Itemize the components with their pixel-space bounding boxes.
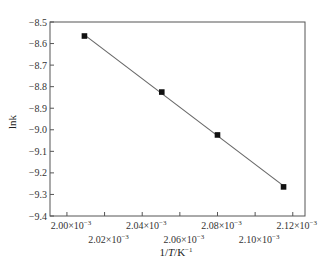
data-point — [215, 132, 221, 138]
x-tick-label: 2.00×10−3 — [51, 219, 92, 231]
x-tick-label: 2.04×10−3 — [126, 219, 167, 231]
y-tick-label: −9.3 — [29, 189, 47, 200]
data-series — [82, 33, 287, 189]
y-tick-label: −8.8 — [29, 81, 47, 92]
y-tick-label: −9.1 — [29, 146, 47, 157]
x-axis-ticks: 2.00×10−32.02×10−32.04×10−32.06×10−32.08… — [51, 212, 318, 245]
data-point — [82, 33, 88, 39]
x-tick-label: 2.02×10−3 — [88, 233, 129, 245]
data-point — [159, 89, 165, 95]
y-tick-label: −8.6 — [29, 38, 47, 49]
fit-line — [84, 35, 283, 186]
y-tick-label: −8.9 — [29, 103, 47, 114]
x-tick-label: 2.12×10−3 — [276, 219, 317, 231]
x-tick-label: 2.06×10−3 — [164, 233, 205, 245]
arrhenius-chart: −8.5−8.6−8.7−8.8−8.9−9.0−9.1−9.2−9.3−9.4… — [0, 0, 326, 280]
y-tick-label: −8.7 — [29, 60, 47, 71]
data-point — [281, 184, 287, 190]
plot-frame — [50, 22, 305, 216]
x-axis-label: 1/T/K−1 — [159, 246, 193, 258]
y-tick-label: −9.4 — [29, 211, 47, 222]
y-axis-label: lnk — [6, 114, 18, 129]
y-tick-label: −8.5 — [29, 17, 47, 28]
x-tick-label: 2.10×10−3 — [239, 233, 280, 245]
y-tick-label: −9.0 — [29, 124, 47, 135]
y-tick-label: −9.2 — [29, 167, 47, 178]
x-tick-label: 2.08×10−3 — [201, 219, 242, 231]
